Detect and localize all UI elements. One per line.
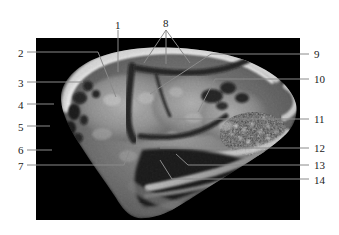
- label-7: 7: [18, 161, 24, 172]
- label-9: 9: [314, 49, 320, 60]
- label-3: 3: [18, 78, 24, 89]
- label-10: 10: [314, 74, 325, 85]
- label-13: 13: [314, 160, 325, 171]
- label-5: 5: [18, 122, 24, 133]
- label-11: 11: [314, 114, 325, 125]
- label-2: 2: [18, 48, 24, 59]
- label-4: 4: [18, 100, 24, 111]
- label-1: 1: [115, 20, 121, 31]
- anatomical-scan-image: [36, 38, 300, 220]
- label-6: 6: [18, 145, 24, 156]
- figure-root: 18 234567 91011121314: [0, 0, 339, 235]
- label-8: 8: [163, 18, 169, 29]
- label-12: 12: [314, 143, 325, 154]
- scan-raster: [36, 38, 300, 220]
- label-14: 14: [314, 175, 325, 186]
